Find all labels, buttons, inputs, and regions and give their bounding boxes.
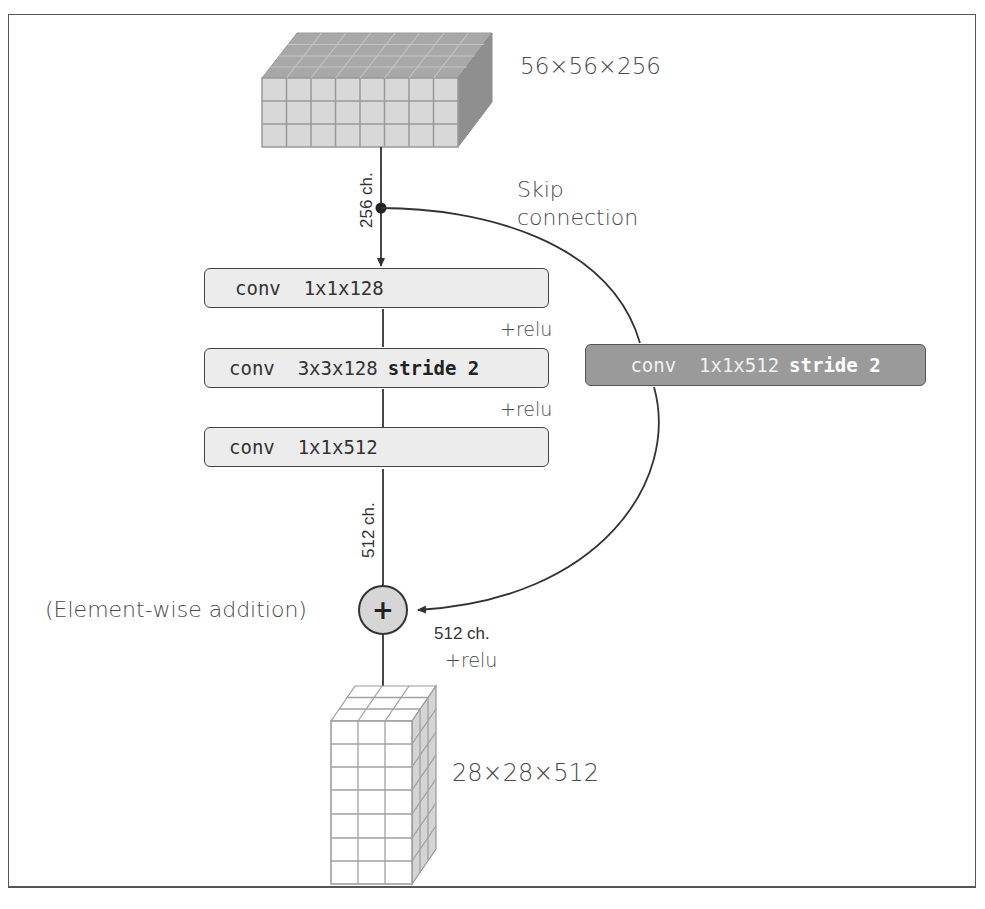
- conv-3x3x128-stride2-box: conv 3x3x128stride 2: [204, 348, 549, 388]
- shortcut-op: conv: [630, 354, 676, 376]
- elementwise-addition-label: (Element-wise addition): [45, 597, 307, 622]
- input-tensor-cube-icon: [262, 33, 492, 147]
- shortcut-conv-1x1x512-stride2-box: conv 1x1x512stride 2: [585, 344, 926, 386]
- conv-1x1x128-box: conv 1x1x128: [204, 268, 549, 308]
- conv1-op: conv: [235, 277, 281, 299]
- plus-icon: +: [372, 595, 394, 625]
- input-shape-label: 56×56×256: [520, 53, 661, 79]
- conv2-op: conv: [229, 357, 275, 379]
- main-output-channels-label: 512 ch.: [359, 502, 378, 558]
- conv3-op: conv: [229, 436, 275, 458]
- conv-1x1x512-box: conv 1x1x512: [204, 427, 549, 467]
- output-shape-label: 28×28×512: [452, 759, 599, 787]
- conv3-spec: 1x1x512: [298, 436, 378, 458]
- elementwise-add-node: +: [359, 586, 407, 634]
- skip-connection-label-line1: Skip: [517, 177, 564, 202]
- relu-label-2: +relu: [500, 398, 552, 420]
- conv1-spec: 1x1x128: [304, 277, 384, 299]
- after-add-relu-label: +relu: [445, 649, 497, 671]
- relu-label-1: +relu: [500, 318, 552, 340]
- skip-connection-curve-lower: [418, 387, 659, 610]
- conv2-spec: 3x3x128: [298, 357, 378, 379]
- skip-connection-label-line2: connection: [517, 205, 638, 230]
- after-add-channels-label: 512 ch.: [434, 624, 490, 643]
- shortcut-spec: 1x1x512: [699, 354, 779, 376]
- output-tensor-cube-icon: [331, 686, 436, 884]
- shortcut-stride: stride 2: [789, 354, 881, 376]
- input-channels-label: 256 ch.: [357, 172, 376, 228]
- conv2-stride: stride 2: [388, 357, 480, 379]
